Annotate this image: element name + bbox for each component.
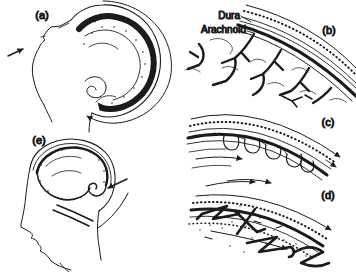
brain-contour-a: [85, 30, 140, 100]
impact-arrow-a: [8, 49, 23, 56]
neck-front-a: [44, 105, 52, 122]
skull-outline-e2: [33, 143, 111, 188]
panel-d-drawing: (d): [189, 182, 335, 267]
face-profile-e: [21, 168, 71, 270]
motion-line-e: [98, 193, 128, 228]
inner-arc-c4: [192, 165, 231, 168]
neck-back-a: [89, 113, 92, 132]
panel-e-letter: (e): [32, 134, 45, 146]
top-arrow-d: [206, 182, 255, 187]
brain-fold-e1: [46, 156, 81, 166]
medical-figure: (a) (e): [0, 0, 356, 272]
face-profile-a: [32, 20, 71, 105]
vein-remnant-c: [282, 95, 312, 107]
brain-fold-a2: [96, 96, 116, 102]
inner-arc-c3: [189, 149, 226, 152]
panel-a-letter: (a): [35, 9, 48, 21]
brain-fold-e2: [52, 171, 81, 176]
mid-arrow-d: [211, 231, 287, 249]
mouth-line-a: [41, 36, 45, 37]
panel-a-drawing: (a): [8, 1, 171, 132]
brain-rim-e: [37, 147, 107, 185]
panel-e-drawing: (e): [21, 134, 128, 272]
panel-c-drawing: (c): [187, 95, 340, 183]
granulation-lobes-c: [214, 133, 314, 172]
panel-c-letter: (c): [322, 116, 335, 128]
flow-arrow-c1: [196, 157, 242, 159]
panel-b-drawing: (b) Dura Arachnoid: [185, 5, 356, 103]
hematoma-crescent-a: [79, 16, 154, 109]
occipital-curl-e: [89, 183, 106, 196]
panel-b-letter: (b): [322, 24, 335, 36]
neck-back-e: [98, 211, 102, 260]
arachnoid-arc-b: [236, 30, 352, 101]
brainstem-curl-a: [85, 77, 106, 98]
skull-stipple-arc-b: [244, 11, 356, 75]
neck-front-e: [60, 263, 69, 272]
cortical-veins-b: [188, 34, 331, 103]
dura-label: Dura: [218, 10, 240, 21]
brain-bottom-e: [37, 173, 90, 200]
panel-d-letter: (d): [321, 189, 334, 201]
brain-fold-a1: [89, 43, 118, 49]
tentorium-band-e2: [53, 210, 89, 226]
stipple-dots-a: [83, 26, 146, 104]
figure-canvas: (a) (e): [0, 0, 356, 272]
